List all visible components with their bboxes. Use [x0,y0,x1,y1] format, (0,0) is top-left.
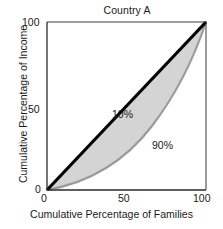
x-tick-label-100: 100 [193,192,211,204]
y-tick-label-0: 0 [35,183,41,195]
y-axis-label-container: Cumulative Percentage of Income [13,14,31,194]
annotation-label-upper: 10% [112,108,133,120]
annotation-label-lower: 90% [152,139,173,151]
lorenz-curve-chart: Country A 0 50 100 0 50 100 10% 90% Cumu… [0,0,223,229]
line-of-equality [47,22,206,190]
y-axis-label: Cumulative Percentage of Income [17,25,29,183]
x-tick-label-0: 0 [41,192,47,204]
x-axis-label: Cumulative Percentage of Families [0,208,223,220]
x-tick-label-50: 50 [118,192,130,204]
